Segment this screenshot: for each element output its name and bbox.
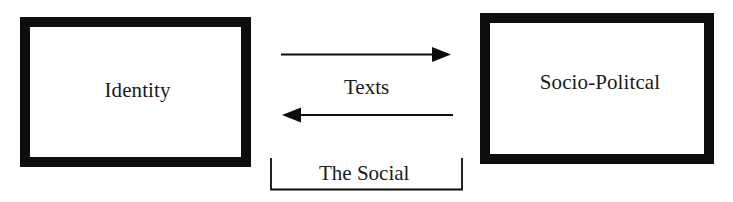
- the-social-label: The Social: [319, 163, 409, 184]
- arrow-right-icon: [281, 47, 451, 62]
- identity-label: Identity: [104, 80, 170, 101]
- texts-label: Texts: [344, 77, 389, 98]
- socio-political-label: Socio-Politcal: [540, 72, 660, 93]
- socio-political-box: Socio-Politcal: [480, 13, 714, 164]
- arrow-left-icon: [282, 108, 453, 123]
- identity-box: Identity: [20, 17, 251, 167]
